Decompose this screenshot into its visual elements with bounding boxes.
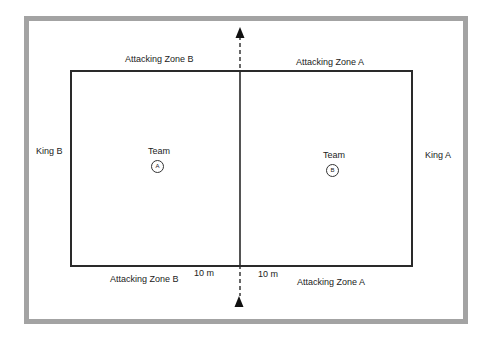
team-b-marker: B [326,164,339,177]
arrow-up-bottom-icon [235,296,244,307]
king-a-label: King A [425,150,451,160]
distance-left-label: 10 m [194,268,214,278]
attacking-zone-b-top-label: Attacking Zone B [125,54,194,64]
distance-right-label: 10 m [258,269,278,279]
team-a-label: Team [148,146,170,156]
attacking-zone-b-bottom-label: Attacking Zone B [110,274,179,284]
king-b-label: King B [36,146,63,156]
team-a-marker: A [151,160,164,173]
attacking-zone-a-bottom-label: Attacking Zone A [297,277,365,287]
center-line-overlay [0,0,489,341]
team-b-label: Team [323,150,345,160]
attacking-zone-a-top-label: Attacking Zone A [296,57,364,67]
team-b-marker-letter: B [330,167,334,173]
arrow-up-icon [236,27,245,38]
team-a-marker-letter: A [155,163,159,169]
